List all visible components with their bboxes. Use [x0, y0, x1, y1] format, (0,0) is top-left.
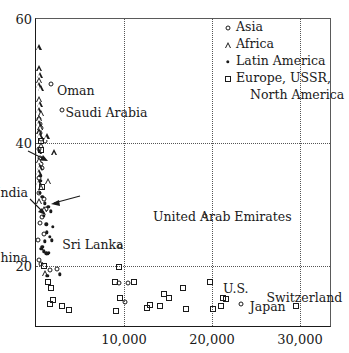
legend-label-asia: Asia — [235, 19, 263, 34]
y-tick-label-60: 60 — [15, 12, 36, 27]
data-point — [122, 300, 127, 305]
data-point — [46, 274, 49, 277]
data-point — [39, 184, 45, 190]
filled-dot-icon — [221, 53, 235, 70]
data-point — [43, 240, 46, 243]
annotation-saudi-arabia: Saudi Arabia — [66, 106, 148, 120]
x-tick-label-10000: 10,000 — [101, 326, 147, 347]
legend-label-north-america: North America — [221, 87, 344, 102]
data-point — [166, 295, 172, 301]
data-point — [112, 279, 118, 285]
data-point — [210, 306, 216, 312]
open-circle-icon — [221, 19, 235, 36]
open-triangle-icon — [221, 36, 235, 53]
annotation-india: India — [0, 186, 28, 200]
data-point — [45, 231, 48, 234]
data-point — [66, 307, 72, 313]
data-point — [43, 201, 46, 204]
data-point — [58, 273, 61, 276]
data-point — [50, 239, 53, 242]
data-point — [223, 296, 229, 302]
data-point — [55, 267, 60, 272]
data-point — [36, 198, 42, 204]
data-point — [51, 149, 57, 155]
data-point — [36, 44, 42, 50]
data-point — [51, 225, 54, 228]
data-point — [49, 209, 52, 212]
gridline-y-20 — [36, 266, 330, 267]
data-point — [37, 220, 42, 225]
x-tick-label-30000: 30,000 — [277, 326, 323, 347]
data-point — [180, 285, 186, 291]
open-square-icon — [221, 70, 235, 87]
data-point — [116, 264, 122, 270]
data-point — [144, 305, 150, 311]
data-point — [41, 263, 47, 269]
legend-item-asia: Asia — [221, 19, 344, 36]
data-point — [47, 251, 50, 254]
data-point — [47, 205, 50, 208]
annotation-sri-lanka: Sri Lanka — [62, 238, 123, 252]
data-point — [42, 214, 45, 217]
data-point — [239, 301, 244, 306]
gridline-y-40 — [36, 143, 330, 144]
data-point — [59, 303, 65, 309]
scatter-chart-figure: 20406010,00020,00030,000OmanSaudi Arabia… — [0, 0, 349, 353]
legend-item-latin-america: Latin America — [221, 53, 344, 70]
x-tick-label-20000: 20,000 — [189, 326, 235, 347]
data-point — [44, 133, 50, 139]
data-point — [44, 222, 47, 225]
annotation-united-arab-emirates: United Arab Emirates — [153, 210, 292, 224]
data-point — [37, 132, 43, 138]
chart-legend: Asia Africa Latin America Europe, USSR, … — [221, 19, 344, 102]
data-point — [38, 147, 44, 153]
data-point — [38, 85, 44, 91]
data-point — [183, 306, 189, 312]
annotation-switzerland: Switzerland — [266, 291, 342, 305]
data-point — [218, 303, 224, 309]
legend-label-europe: Europe, USSR, — [235, 70, 331, 85]
data-point — [36, 157, 42, 163]
data-point — [131, 279, 137, 285]
data-point — [59, 108, 64, 113]
y-tick-label-40: 40 — [15, 135, 36, 150]
annotation-oman: Oman — [57, 84, 95, 98]
annotation-china: China — [0, 251, 28, 265]
data-point — [117, 295, 123, 301]
legend-item-africa: Africa — [221, 36, 344, 53]
data-point — [157, 303, 163, 309]
legend-item-europe-ussr-north-america: Europe, USSR, — [221, 70, 344, 87]
data-point — [38, 138, 44, 144]
data-point — [45, 279, 51, 285]
data-point — [47, 301, 53, 307]
legend-label-latin-america: Latin America — [235, 53, 326, 68]
data-point — [36, 238, 41, 243]
annotation-u-s: U.S. — [223, 282, 248, 296]
data-point — [113, 308, 119, 314]
data-point — [48, 81, 53, 86]
data-point — [45, 178, 51, 184]
gridline-x-10000 — [124, 19, 125, 326]
data-point — [39, 179, 42, 182]
data-point — [48, 285, 54, 291]
data-point — [36, 65, 42, 71]
data-point — [207, 279, 213, 285]
legend-label-africa: Africa — [235, 36, 274, 51]
